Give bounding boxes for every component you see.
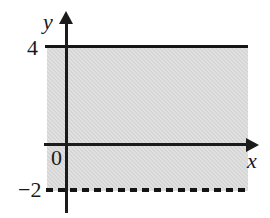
- origin-label: 0: [51, 147, 62, 169]
- y-axis-arrowhead-icon: [59, 11, 73, 24]
- y-axis-line: [65, 20, 68, 213]
- dashed-boundary-line-y-equals-negative-2: [46, 188, 248, 192]
- y-axis-label: y: [43, 11, 53, 33]
- y-tick-label-4: 4: [27, 37, 38, 59]
- x-axis-line: [44, 143, 249, 146]
- y-tick-label-negative-2: −2: [18, 179, 41, 201]
- shaded-solution-region: [47, 47, 248, 191]
- graph-figure: y x 4 0 −2: [0, 0, 270, 218]
- x-axis-label: x: [247, 150, 257, 172]
- solid-boundary-line-y-equals-4: [45, 45, 248, 48]
